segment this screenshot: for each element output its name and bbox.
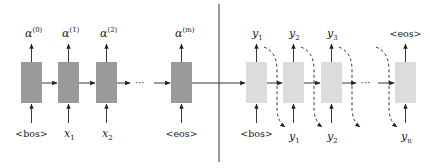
decoder-input-label-2: y2 xyxy=(326,130,338,145)
decoder-cell-2 xyxy=(321,62,342,103)
decoder-cell-3 xyxy=(395,62,416,103)
decoder-output-label-2: y3 xyxy=(326,27,338,42)
decoder-output-label-3: <eos> xyxy=(389,28,421,39)
feedback-arrow xyxy=(301,47,322,127)
feedback-arrow xyxy=(376,47,397,127)
encoder-cell-3 xyxy=(171,62,192,103)
encoder-cell-1 xyxy=(58,62,79,103)
encoder-output-label-3: α(m) xyxy=(175,26,195,40)
decoder-output-label-0: y1 xyxy=(251,27,263,42)
encoder-ellipsis: ··· xyxy=(135,77,145,88)
encoder-cell-2 xyxy=(96,62,117,103)
decoder-input-label-0: <bos> xyxy=(240,128,273,139)
encoder-output-label-1: α(1) xyxy=(62,26,80,40)
encoder-input-label-0: <bos> xyxy=(15,128,48,139)
encoder-output-label-2: α(2) xyxy=(100,26,118,40)
decoder: ··· y1 y2 y3 <eos> <bos> y1 y2 yn xyxy=(240,27,421,145)
encoder-input-label-3: <eos> xyxy=(165,128,197,139)
encoder: ··· α(0) α(1) α(2) α(m) <bos> x1 x2 <eos… xyxy=(15,26,245,142)
decoder-input-label-1: y1 xyxy=(288,130,300,145)
encoder-input-label-1: x1 xyxy=(64,127,75,142)
encoder-decoder-diagram: ··· α(0) α(1) α(2) α(m) <bos> x1 x2 <eos… xyxy=(0,0,430,168)
feedback-arrow xyxy=(264,47,285,127)
decoder-cell-1 xyxy=(283,62,304,103)
decoder-ellipsis: ··· xyxy=(361,77,371,88)
decoder-input-label-3: yn xyxy=(400,130,412,145)
feedback-arrow xyxy=(339,47,360,127)
encoder-input-label-2: x2 xyxy=(102,127,113,142)
encoder-cell-0 xyxy=(21,62,42,103)
decoder-cell-0 xyxy=(246,62,267,103)
decoder-output-label-1: y2 xyxy=(288,27,300,42)
encoder-output-label-0: α(0) xyxy=(25,26,43,40)
